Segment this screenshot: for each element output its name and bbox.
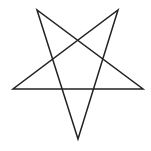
pentagram-star-icon [13, 10, 143, 139]
pentagram-figure [0, 0, 151, 151]
